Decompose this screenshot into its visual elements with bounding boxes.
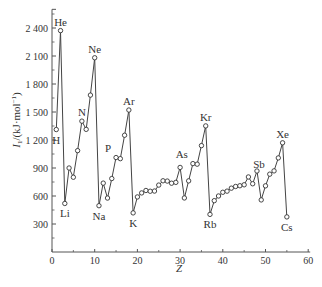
data-point [263, 184, 267, 188]
y-axis-label: I1/(kJ·mol−1) [10, 92, 24, 149]
data-point [71, 175, 75, 179]
data-point [80, 119, 84, 123]
element-label-rb: Rb [204, 218, 217, 230]
data-point [63, 201, 67, 205]
data-point [216, 194, 220, 198]
data-point [178, 165, 182, 169]
element-labels: HHeLiNNeNaPArKAsKrRbSbXeCs [52, 16, 292, 233]
series-line [56, 31, 286, 217]
data-point [285, 215, 289, 219]
element-label-as: As [176, 148, 188, 160]
ionization-energy-chart: 01020304050603006009001 2001 5001 8002 1… [0, 0, 322, 287]
data-point [208, 212, 212, 216]
data-point [75, 148, 79, 152]
data-point [88, 93, 92, 97]
data-point [204, 124, 208, 128]
data-point [161, 179, 165, 183]
x-tick-label: 60 [303, 255, 313, 266]
data-point [268, 172, 272, 176]
data-point [276, 156, 280, 160]
x-tick-label: 10 [90, 255, 100, 266]
data-point [152, 189, 156, 193]
data-point [110, 176, 114, 180]
data-point [242, 183, 246, 187]
data-point [54, 127, 58, 131]
element-label-kr: Kr [200, 111, 212, 123]
element-label-xe: Xe [276, 128, 289, 140]
x-tick-label: 50 [261, 255, 271, 266]
data-point [118, 156, 122, 160]
element-label-p: P [105, 142, 111, 154]
data-point [233, 184, 237, 188]
data-point [148, 189, 152, 193]
y-tick-label: 1 200 [26, 135, 49, 146]
y-tick-label: 2 100 [26, 51, 49, 62]
y-tick-label: 900 [33, 163, 48, 174]
data-point [131, 211, 135, 215]
data-point [280, 141, 284, 145]
data-point [191, 161, 195, 165]
element-label-n: N [78, 106, 86, 118]
data-point [165, 179, 169, 183]
element-label-sb: Sb [253, 158, 265, 170]
data-point [144, 188, 148, 192]
y-tick-label: 1 500 [26, 107, 49, 118]
data-point [238, 184, 242, 188]
data-point [127, 108, 131, 112]
element-label-h: H [52, 134, 60, 146]
x-tick-label: 40 [218, 255, 228, 266]
data-point [101, 181, 105, 185]
data-point [58, 28, 62, 32]
data-point [105, 196, 109, 200]
data-point [272, 169, 276, 173]
data-point [225, 189, 229, 193]
x-tick-label: 20 [132, 255, 142, 266]
element-label-he: He [54, 16, 67, 28]
data-point [67, 166, 71, 170]
data-point [135, 195, 139, 199]
data-point [169, 181, 173, 185]
element-label-li: Li [60, 207, 70, 219]
data-point [114, 155, 118, 159]
y-tick-label: 600 [33, 191, 48, 202]
data-point [186, 179, 190, 183]
element-label-ar: Ar [123, 95, 135, 107]
data-point [246, 175, 250, 179]
data-point [250, 182, 254, 186]
data-point [139, 191, 143, 195]
data-point [157, 183, 161, 187]
axes: 01020304050603006009001 2001 5001 8002 1… [26, 9, 314, 266]
x-axis-label: Z [176, 262, 183, 274]
data-series [54, 28, 289, 219]
data-point [221, 190, 225, 194]
data-point [122, 133, 126, 137]
data-point [199, 143, 203, 147]
y-tick-label: 2 400 [26, 23, 49, 34]
y-tick-label: 1 800 [26, 79, 49, 90]
data-point [93, 56, 97, 60]
data-point [84, 127, 88, 131]
element-label-na: Na [93, 210, 106, 222]
element-label-k: K [129, 217, 137, 229]
data-point [97, 204, 101, 208]
data-point [182, 196, 186, 200]
data-point [259, 198, 263, 202]
data-point [174, 180, 178, 184]
data-point [229, 186, 233, 190]
chart-svg: 01020304050603006009001 2001 5001 8002 1… [0, 0, 322, 287]
data-point [195, 162, 199, 166]
data-point [212, 198, 216, 202]
element-label-cs: Cs [281, 221, 293, 233]
x-tick-label: 0 [50, 255, 55, 266]
element-label-ne: Ne [88, 43, 101, 55]
y-tick-label: 300 [33, 219, 48, 230]
